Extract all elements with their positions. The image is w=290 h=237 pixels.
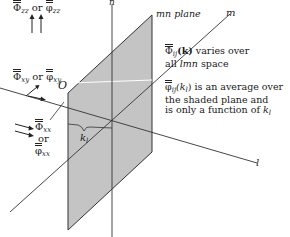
- xy-Phi-sub: xy: [21, 76, 29, 84]
- xx-arrowhead-2: [29, 133, 35, 138]
- xy-or: or: [32, 71, 43, 82]
- xy-arrowhead-2: [41, 97, 47, 102]
- plane-label-text: mn plane: [156, 8, 201, 19]
- average-note: φij(kl) is an average over the shaded pl…: [165, 82, 283, 118]
- m-axis-label: m: [226, 7, 235, 18]
- zz-phi: φ: [46, 2, 53, 13]
- zz-phi-sub: zz: [53, 7, 60, 15]
- varies-note-line2: all lmn space: [165, 59, 249, 69]
- varies-note: Φij(k) varies over all lmn space: [165, 46, 249, 69]
- diagram-canvas: [0, 0, 290, 237]
- xy-phi-sub: xy: [53, 76, 61, 84]
- zz-label: Φzz or φzz: [13, 2, 60, 17]
- xx-arrow-2: [15, 131, 30, 135]
- xx-arrow-1: [15, 124, 30, 128]
- l-axis-label: l: [256, 157, 259, 168]
- plane-label: mn plane: [156, 8, 201, 19]
- kl-label: kl: [80, 132, 88, 147]
- average-note-line3: is only a function of kl: [165, 105, 283, 118]
- xy-arrow-1: [26, 87, 37, 96]
- xy-Phi: Φ: [13, 71, 21, 82]
- xy-label: Φxy or φxy: [13, 71, 61, 86]
- zz-or: or: [32, 2, 43, 13]
- zz-Phi-sub: zz: [21, 7, 28, 15]
- n-axis-label: n: [109, 0, 115, 8]
- kl-sub: l: [86, 137, 88, 145]
- xx-arrowhead-1: [29, 126, 35, 131]
- zz-Phi: Φ: [13, 2, 21, 13]
- xx-label-phi: φxx: [35, 145, 50, 160]
- xy-phi: φ: [46, 71, 53, 82]
